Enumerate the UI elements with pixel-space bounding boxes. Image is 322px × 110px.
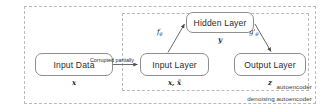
node-input-layer-sublabel: x, x̃ <box>140 79 209 86</box>
diagram-canvas: Input Data x Input Layer x, x̃ Hidden La… <box>0 0 322 110</box>
decoder-function-subscript: θ <box>255 31 258 37</box>
node-input-data-sublabel: x <box>35 79 113 86</box>
node-hidden-layer-sublabel: y <box>186 36 254 43</box>
node-output-layer[interactable]: Output Layer <box>234 53 306 76</box>
edge-label-encoder-function: fθ <box>157 29 163 37</box>
node-input-layer-label: Input Layer <box>152 60 197 70</box>
edge-label-decoder-function: g'θ <box>249 29 258 37</box>
node-input-layer[interactable]: Input Layer <box>140 53 209 76</box>
edge-label-corrupted-partially: Corrupted partially <box>89 57 135 64</box>
node-hidden-layer-label: Hidden Layer <box>194 18 247 28</box>
frame-label-autoencoder: autoencoder <box>276 84 312 90</box>
frame-label-denoising-autoencoder: denoising autoencoder <box>247 96 312 102</box>
node-hidden-layer[interactable]: Hidden Layer <box>186 12 254 33</box>
encoder-function-subscript: θ <box>160 31 163 37</box>
node-output-layer-label: Output Layer <box>244 60 295 70</box>
